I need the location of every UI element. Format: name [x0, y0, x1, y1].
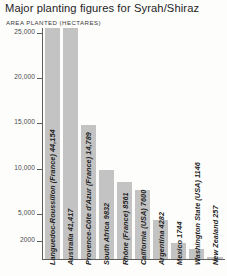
chart-page: Major planting figures for Syrah/Shiraz …: [0, 0, 227, 276]
bar-label: Mexico 1744: [175, 221, 184, 265]
y-axis-tick-label: 20,000: [14, 73, 35, 80]
bar-label: New Zealand 257: [211, 205, 220, 265]
bar-label: Languedoc-Roussillon (France) 44,154: [48, 129, 57, 265]
y-axis-tick-label: 2000: [20, 236, 35, 243]
bar-label: Argentina 4282: [157, 212, 166, 265]
bar-label: Rhône (France) 8561: [121, 192, 130, 265]
bar-label: Washington State (USA) 1146: [193, 162, 202, 265]
bar-label: Provence-Côte d'Azur (France) 14,789: [84, 132, 93, 265]
y-axis-tick-label: 5,000: [18, 209, 35, 216]
chart-subtitle: AREA PLANTED (HECTARES): [6, 19, 101, 26]
page-title: Major planting figures for Syrah/Shiraz: [5, 2, 199, 14]
y-axis-tick-label: 25,000: [14, 28, 35, 35]
y-axis-tick-label: 10,000: [14, 164, 35, 171]
y-axis-tick-label: 15,000: [14, 118, 35, 125]
bar-label: South Africa 9832: [102, 203, 111, 265]
bar-label: Australia 41,417: [66, 209, 75, 265]
bar-label: California (USA) 7600: [139, 190, 148, 265]
